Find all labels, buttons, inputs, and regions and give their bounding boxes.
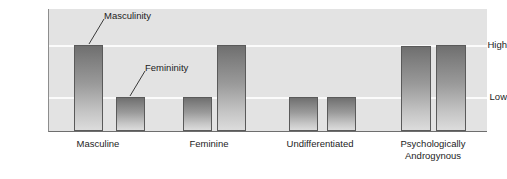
annotation-label-masculinity: Masculinity bbox=[104, 10, 151, 21]
x-category-label-undifferentiated: Undifferentiated bbox=[265, 138, 375, 150]
annotation-label-femininity: Femininity bbox=[145, 62, 188, 73]
x-category-label-androgynous: Psychologically Androgynous bbox=[378, 138, 488, 161]
plot-area bbox=[48, 9, 487, 132]
x-category-label-masculine: Masculine bbox=[48, 138, 148, 150]
bar-chart-figure: High Low Masculinity Femininity Masculin… bbox=[0, 0, 507, 179]
leader-line-femininity bbox=[49, 9, 488, 132]
x-category-label-feminine: Feminine bbox=[159, 138, 259, 150]
